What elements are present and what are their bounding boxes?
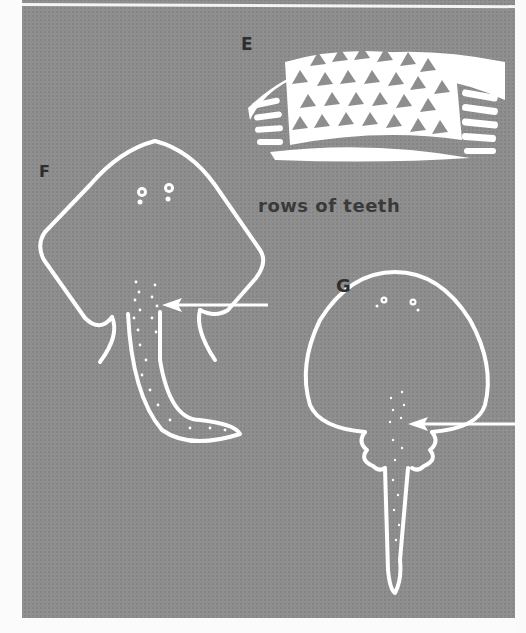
tooth-plate-e — [248, 46, 505, 162]
panel-label-e: E — [241, 34, 253, 54]
ray-f-spots — [133, 183, 227, 431]
ray-f — [40, 141, 263, 441]
caption-rows-of-teeth: rows of teeth — [258, 195, 400, 216]
arrow-f — [162, 298, 268, 312]
ray-g-spots — [376, 297, 420, 542]
illustration-art — [0, 0, 526, 633]
ray-g — [306, 272, 488, 593]
arrow-g — [408, 417, 516, 431]
panel-label-f: F — [39, 162, 50, 181]
panel-label-g: G — [336, 275, 351, 296]
